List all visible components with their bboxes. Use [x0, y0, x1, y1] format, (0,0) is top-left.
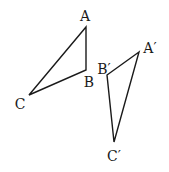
label-b: B	[84, 74, 94, 90]
label-b-prime: B′	[97, 61, 110, 77]
label-c-prime: C′	[107, 148, 121, 164]
triangle-abc	[29, 27, 86, 95]
label-c: C	[15, 96, 26, 112]
label-a: A	[79, 8, 91, 24]
triangle-diagram: A B C A′ B′ C′	[0, 0, 169, 172]
triangle-a-prime-b-prime-c-prime	[107, 52, 139, 142]
label-a-prime: A′	[142, 40, 156, 56]
